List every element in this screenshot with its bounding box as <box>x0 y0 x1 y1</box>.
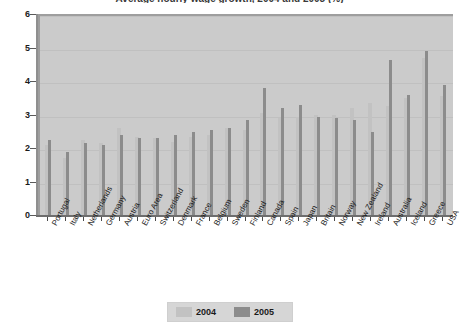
x-axis-tick-mark <box>262 217 263 221</box>
y-axis-tick-mark <box>30 215 36 216</box>
y-axis-tick-label: 6 <box>4 10 30 19</box>
x-axis-tick-mark <box>316 217 317 221</box>
legend-label: 2004 <box>196 307 216 317</box>
x-axis-tick-mark <box>47 217 48 221</box>
y-axis-tick-mark <box>30 115 36 116</box>
x-axis-tick-mark <box>191 217 192 221</box>
bar-group <box>40 16 453 217</box>
y-axis-tick-label: 4 <box>4 77 30 86</box>
y-axis-tick-labels: 0123456 <box>0 0 30 331</box>
legend-label: 2005 <box>254 307 274 317</box>
x-axis-tick-mark <box>227 217 228 221</box>
y-axis-tick-label: 2 <box>4 144 30 153</box>
x-axis-tick-mark <box>370 217 371 221</box>
x-axis-tick-mark <box>334 217 335 221</box>
y-axis-tick-label: 5 <box>4 44 30 53</box>
x-axis-tick-mark <box>209 217 210 221</box>
chart-title: Average hourly wage growth, 2004 and 200… <box>0 0 459 3</box>
y-axis-tick-label: 3 <box>4 111 30 120</box>
y-axis-tick-mark <box>30 182 36 183</box>
x-axis-tick-mark <box>245 217 246 221</box>
plot-inner <box>40 16 453 217</box>
y-axis-tick-mark <box>30 81 36 82</box>
x-axis-tick-mark <box>280 217 281 221</box>
bar-2005 <box>443 85 446 217</box>
plot-area <box>38 14 453 217</box>
x-axis-tick-mark <box>155 217 156 221</box>
x-axis-tick-mark <box>442 217 443 221</box>
x-axis-tick-mark <box>424 217 425 221</box>
y-axis-tick-mark <box>30 48 36 49</box>
y-axis-tick-mark <box>30 14 36 15</box>
x-axis-tick-mark <box>388 217 389 221</box>
y-axis-tick-label: 1 <box>4 178 30 187</box>
x-axis-tick-mark <box>137 217 138 221</box>
x-axis-tick-mark <box>352 217 353 221</box>
x-axis-tick-mark <box>65 217 66 221</box>
y-axis-tick-label: 0 <box>4 211 30 220</box>
x-axis-tick-mark <box>101 217 102 221</box>
x-axis-tick-mark <box>173 217 174 221</box>
x-axis-tick-mark <box>298 217 299 221</box>
x-axis-tick-mark <box>406 217 407 221</box>
legend-swatch <box>176 307 192 317</box>
x-axis-tick-mark <box>83 217 84 221</box>
chart-legend: 20042005 <box>167 302 293 322</box>
y-axis-tick-mark <box>30 148 36 149</box>
x-axis-tick-mark <box>119 217 120 221</box>
y-axis-line <box>36 14 38 217</box>
legend-swatch <box>234 307 250 317</box>
